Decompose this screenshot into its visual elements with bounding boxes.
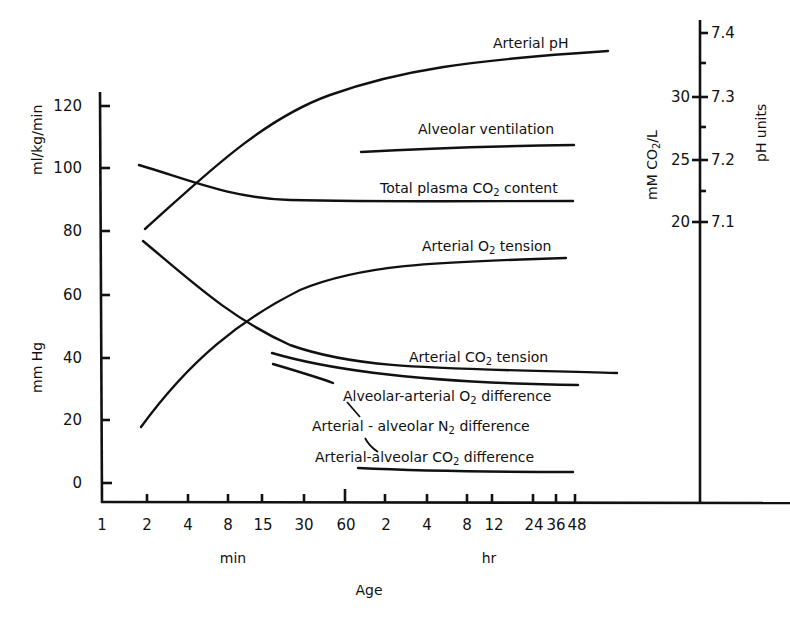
right-axis-label-co2: mM CO2/L [644,130,662,200]
left-y-axis: 120 100 80 60 40 20 0 ml/kg/min mm Hg [29,92,112,503]
x-tick: 30 [294,516,313,534]
co2-tick: 25 [671,151,690,169]
left-tick: 120 [53,97,82,115]
x-tick: 60 [336,516,355,534]
x-tick: 12 [484,516,503,534]
x-tick: 2 [381,516,391,534]
ph-tick: 7.3 [711,88,735,106]
right-y-axis: 7.4 7.3 7.2 7.1 30 25 20 mM CO2/L pH uni… [644,20,769,503]
label-arterial-co2-tension: Arterial CO2 tension [409,349,548,367]
x-tick: 24 [524,516,543,534]
label-arterial-alveolar-n2-diff: Arterial - alveolar N2 difference [312,418,530,436]
x-axis: 1 2 4 8 15 30 60 2 4 8 12 24 36 48 min h… [97,489,790,598]
x-tick: 8 [223,516,233,534]
label-arterial-alveolar-co2-diff: Arterial-alveolar CO2 difference [315,449,534,467]
ph-tick: 7.4 [711,24,735,42]
x-axis-title: Age [355,582,382,598]
left-axis-label-pressure: mm Hg [29,342,45,393]
x-tick: 2 [142,516,152,534]
series-curves [139,51,617,472]
co2-tick: 20 [671,213,690,231]
x-tick: 1 [97,516,107,534]
x-unit-min: min [220,550,246,566]
x-tick: 15 [253,516,272,534]
series-labels: Arterial pH Alveolar ventilation Total p… [312,35,568,467]
x-unit-hr: hr [482,550,497,566]
leader-n2 [347,402,360,417]
left-tick: 80 [63,222,82,240]
x-tick: 8 [462,516,472,534]
right-axis-label-ph: pH units [753,104,769,162]
left-tick: 60 [63,286,82,304]
left-axis-label-flow: ml/kg/min [29,105,45,175]
label-arterial-o2-tension: Arterial O2 tension [422,238,551,256]
left-tick: 40 [63,349,82,367]
x-tick: 48 [567,516,586,534]
curve-arterial-alveolar-n2-diff [273,364,333,383]
chart: 120 100 80 60 40 20 0 ml/kg/min mm Hg 1 … [0,0,790,622]
label-alveolar-arterial-o2-diff: Alveolar-arterial O2 difference [343,388,551,406]
ph-tick: 7.1 [711,213,735,231]
x-tick: 4 [422,516,432,534]
label-total-plasma-co2: Total plasma CO2 content [379,180,558,198]
left-tick: 20 [63,411,82,429]
curve-alveolar-ventilation [361,145,574,152]
label-arterial-ph: Arterial pH [493,35,568,51]
ph-tick: 7.2 [711,151,735,169]
curve-arterial-ph [145,51,608,229]
co2-tick: 30 [671,88,690,106]
curve-arterial-alveolar-co2-diff [358,468,573,472]
x-tick: 4 [183,516,193,534]
left-tick: 0 [72,474,82,492]
x-tick: 36 [546,516,565,534]
label-alveolar-ventilation: Alveolar ventilation [418,121,554,137]
left-tick: 100 [53,159,82,177]
